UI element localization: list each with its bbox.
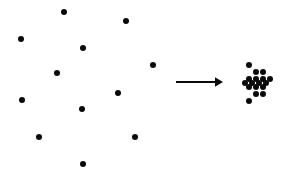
- data-point: [260, 69, 267, 76]
- data-point: [246, 98, 253, 105]
- data-point: [260, 84, 267, 91]
- clustering-figure: [0, 0, 289, 177]
- data-point: [253, 69, 260, 76]
- data-point: [246, 84, 253, 91]
- data-point: [260, 91, 267, 98]
- data-point: [246, 62, 253, 69]
- data-point: [253, 84, 260, 91]
- clustered-points-panel: [0, 0, 289, 177]
- data-point: [253, 91, 260, 98]
